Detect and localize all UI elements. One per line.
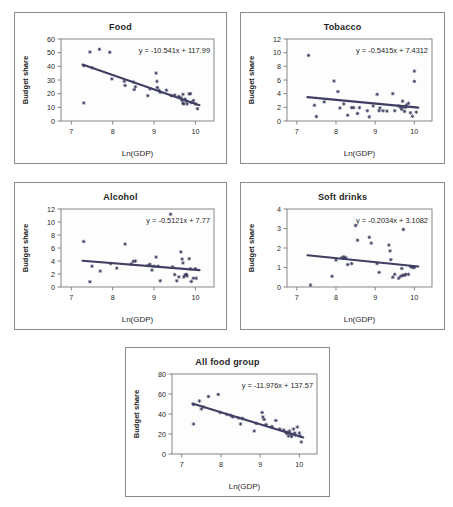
- data-point: [377, 271, 381, 275]
- data-point: [387, 243, 391, 247]
- data-point: [330, 274, 334, 278]
- data-point: [158, 279, 162, 283]
- regression-equation-label: y = -10.541x + 117.99: [139, 46, 210, 55]
- data-point: [309, 283, 313, 287]
- y-axis-tick-label: 10: [47, 103, 55, 112]
- y-axis-label: Budget share: [21, 224, 30, 273]
- data-point: [402, 228, 406, 232]
- data-point: [371, 104, 375, 108]
- data-point: [413, 69, 417, 73]
- x-axis-tick-label: 10: [191, 293, 199, 302]
- data-point: [354, 224, 358, 228]
- data-point: [391, 275, 395, 279]
- data-point: [407, 101, 411, 105]
- data-point: [154, 71, 158, 75]
- x-axis-label: Ln(GDP): [344, 149, 376, 158]
- data-point: [98, 269, 102, 273]
- data-point: [169, 212, 173, 216]
- y-axis-tick-label: 20: [47, 89, 55, 98]
- data-point: [155, 80, 159, 84]
- data-point: [108, 50, 112, 54]
- x-axis-tick-label: 10: [410, 293, 418, 302]
- x-axis-tick-label: 9: [152, 293, 156, 302]
- x-axis-label: Ln(GDP): [122, 149, 154, 158]
- x-axis-tick-label: 8: [111, 293, 115, 302]
- y-axis-tick-label: 4: [277, 205, 281, 214]
- y-axis-tick-label: 0: [51, 117, 55, 126]
- regression-equation-label: y = -0.5415x + 7.4312: [356, 46, 428, 55]
- x-axis-tick-label: 8: [219, 460, 223, 469]
- x-axis-tick-label: 8: [334, 127, 338, 136]
- y-axis-tick-label: 80: [158, 370, 166, 379]
- y-axis-label: Budget share: [247, 224, 256, 273]
- data-point: [192, 422, 196, 426]
- data-point: [274, 419, 278, 423]
- data-point: [180, 257, 184, 261]
- data-point: [377, 109, 381, 113]
- data-point: [98, 47, 102, 51]
- y-axis-label: Budget share: [21, 56, 30, 105]
- data-point: [391, 92, 395, 96]
- y-axis-tick-label: 6: [51, 244, 55, 253]
- y-axis-tick-label: 1: [277, 263, 281, 272]
- data-point: [239, 422, 243, 426]
- data-point: [336, 90, 340, 94]
- data-point: [88, 280, 92, 284]
- x-axis-label: Ln(GDP): [122, 315, 154, 324]
- y-axis-tick-label: 10: [273, 48, 281, 57]
- data-point: [411, 114, 415, 118]
- regression-equation-label: y = -11.976x + 137.57: [242, 381, 313, 390]
- data-point: [413, 80, 417, 84]
- regression-equation-label: y = -0.5121x + 7.77: [146, 216, 210, 225]
- data-point: [298, 431, 302, 435]
- data-point: [189, 92, 193, 96]
- x-axis-tick-label: 8: [334, 293, 338, 302]
- y-axis-tick-label: 60: [158, 390, 166, 399]
- y-axis-tick-label: 0: [277, 283, 281, 292]
- data-point: [300, 440, 304, 444]
- scatter-plot-all-food-group: 02040608078910Ln(GDP)Budget sharey = -11…: [126, 348, 331, 498]
- data-point: [356, 238, 360, 242]
- x-axis-tick-label: 9: [373, 293, 377, 302]
- y-axis-tick-label: 6: [277, 76, 281, 85]
- data-point: [260, 411, 264, 415]
- data-point: [115, 266, 119, 270]
- x-axis-tick-label: 10: [410, 127, 418, 136]
- data-point: [350, 262, 354, 266]
- data-point: [181, 261, 185, 265]
- data-point: [123, 84, 127, 88]
- data-point: [165, 88, 169, 92]
- data-point: [154, 255, 158, 259]
- data-point: [179, 250, 183, 254]
- y-axis-tick-label: 4: [277, 89, 281, 98]
- x-axis-tick-label: 7: [295, 127, 299, 136]
- data-point: [175, 279, 179, 283]
- data-point: [378, 106, 382, 110]
- data-point: [296, 425, 300, 429]
- x-axis-tick-label: 10: [295, 460, 303, 469]
- data-point: [315, 115, 319, 119]
- y-axis-tick-label: 50: [47, 48, 55, 57]
- data-point: [400, 267, 404, 271]
- data-point: [369, 241, 373, 245]
- data-point: [346, 263, 350, 267]
- y-axis-label: Budget share: [247, 56, 256, 105]
- data-point: [88, 50, 92, 54]
- data-point: [322, 100, 326, 104]
- data-point: [307, 54, 311, 58]
- data-point: [134, 85, 138, 89]
- chart-panel-soft-drinks: Soft drinks0123478910Ln(GDP)Budget share…: [240, 182, 445, 330]
- data-point: [415, 110, 419, 114]
- data-point: [194, 276, 198, 280]
- x-axis-tick-label: 9: [152, 127, 156, 136]
- y-axis-tick-label: 2: [51, 270, 55, 279]
- data-point: [146, 94, 150, 98]
- y-axis-tick-label: 40: [47, 62, 55, 71]
- data-point: [375, 93, 379, 97]
- data-point: [110, 77, 114, 81]
- data-point: [134, 259, 138, 263]
- data-point: [367, 235, 371, 239]
- x-axis-tick-label: 7: [180, 460, 184, 469]
- data-point: [185, 102, 189, 106]
- data-point: [252, 429, 256, 433]
